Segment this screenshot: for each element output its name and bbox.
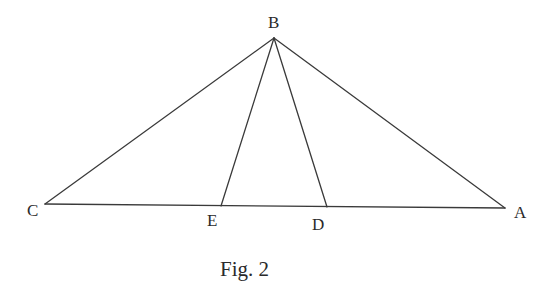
segment-be	[221, 38, 274, 206]
segment-ba	[274, 38, 505, 208]
segment-bc	[45, 38, 274, 204]
figure-caption: Fig. 2	[220, 257, 269, 281]
triangle-diagram: B C A E D Fig. 2	[0, 0, 547, 293]
segment-bd	[274, 38, 327, 207]
label-e: E	[207, 211, 217, 230]
label-c: C	[27, 201, 38, 220]
label-a: A	[514, 203, 527, 222]
label-d: D	[312, 215, 324, 234]
label-b: B	[268, 13, 279, 32]
segment-ca	[45, 204, 505, 208]
